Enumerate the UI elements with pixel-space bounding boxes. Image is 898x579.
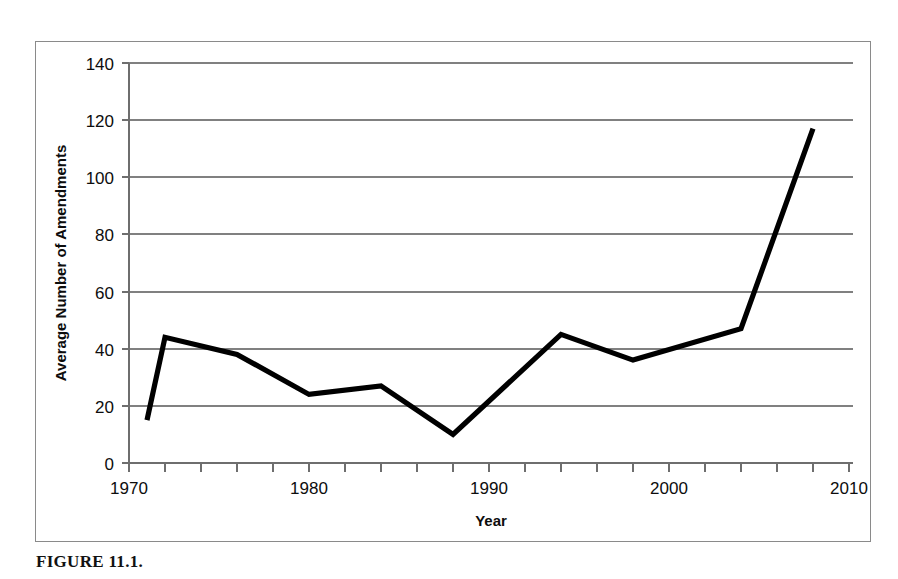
y-axis-title: Average Number of Amendments bbox=[52, 145, 69, 381]
x-axis-title: Year bbox=[475, 512, 507, 529]
y-tick-label-60: 60 bbox=[95, 284, 114, 303]
chart-frame: 140 120 100 80 60 40 20 0 1970 1980 1990… bbox=[35, 41, 871, 542]
amendments-series-line bbox=[147, 129, 813, 435]
x-tick-label-1980: 1980 bbox=[290, 479, 328, 498]
y-tick-label-80: 80 bbox=[95, 226, 114, 245]
x-tick-label-1990: 1990 bbox=[470, 479, 508, 498]
axes bbox=[129, 63, 853, 463]
figure-container: 140 120 100 80 60 40 20 0 1970 1980 1990… bbox=[0, 0, 898, 579]
y-tick-label-140: 140 bbox=[86, 55, 114, 74]
x-tickmarks bbox=[129, 463, 849, 472]
x-tick-labels: 1970 1980 1990 2000 2010 bbox=[110, 479, 868, 498]
x-tick-label-1970: 1970 bbox=[110, 479, 148, 498]
y-tickmarks bbox=[122, 63, 129, 463]
amendments-line-chart: 140 120 100 80 60 40 20 0 1970 1980 1990… bbox=[36, 42, 870, 541]
y-tick-label-100: 100 bbox=[86, 169, 114, 188]
y-tick-label-0: 0 bbox=[105, 455, 114, 474]
y-tick-labels: 140 120 100 80 60 40 20 0 bbox=[86, 55, 114, 474]
x-tick-label-2000: 2000 bbox=[650, 479, 688, 498]
y-tick-label-120: 120 bbox=[86, 112, 114, 131]
y-tick-label-40: 40 bbox=[95, 341, 114, 360]
x-tick-label-2010: 2010 bbox=[830, 479, 868, 498]
figure-caption: FIGURE 11.1. bbox=[36, 552, 143, 572]
y-tick-label-20: 20 bbox=[95, 398, 114, 417]
